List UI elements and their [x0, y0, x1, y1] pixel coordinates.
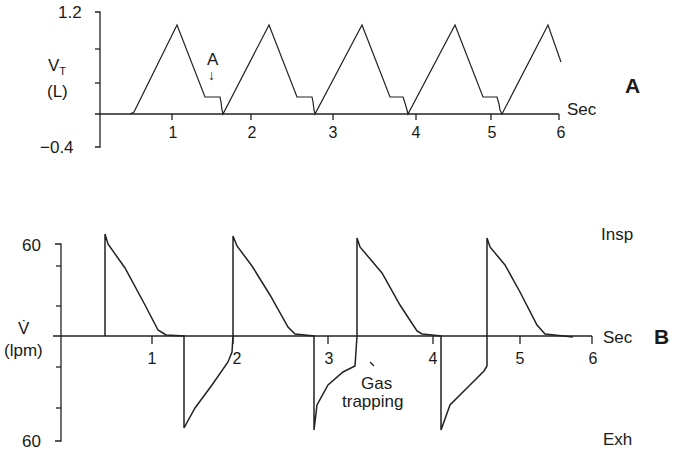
panel-b-xtick-1: 1 [148, 351, 157, 367]
panel-b-exh-label: Exh [603, 431, 632, 448]
panel-a-xunit: Sec [567, 101, 596, 118]
gas-trapping-label-line1: Gas [361, 375, 392, 392]
panel-b-xunit: Sec [603, 329, 632, 346]
panel-b-axes [53, 244, 592, 441]
panel-b-insp-label: Insp [601, 226, 633, 243]
panel-a-ylabel-main: V [48, 56, 59, 75]
panel-a-xtick-6: 6 [557, 125, 566, 141]
panel-a-annotation: A [207, 51, 218, 68]
panel-b-yunit: (lpm) [4, 342, 43, 359]
panel-a-volume-trace [130, 25, 561, 114]
panel-a-annotation-arrow-icon: ↓ [208, 68, 215, 82]
panel-b-ymax-label: 60 [22, 237, 41, 254]
panel-a-xtick-5: 5 [488, 125, 497, 141]
gas-trapping-label-line2: trapping [342, 393, 403, 410]
panel-b-xtick-5: 5 [516, 351, 525, 367]
panel-a-xtick-3: 3 [329, 125, 338, 141]
panel-a-yunit: (L) [47, 83, 68, 100]
panel-b-xtick-6: 6 [589, 351, 598, 367]
panel-b-xtick-3: 3 [325, 351, 334, 367]
panel-b-letter: B [654, 326, 669, 347]
panel-a-xtick-4: 4 [412, 125, 421, 141]
gas-trapping-arrow [370, 362, 374, 366]
chart-canvas [0, 0, 678, 456]
panel-a-ymin-label: −0.4 [40, 139, 74, 156]
panel-b-xtick-4: 4 [429, 351, 438, 367]
panel-a-ymax-label: 1.2 [58, 4, 82, 21]
panel-b-ylabel: V̇ [18, 320, 29, 337]
panel-a-xtick-2: 2 [248, 125, 257, 141]
panel-a-ylabel-sub: T [59, 65, 66, 77]
panel-b-ymin-label: 60 [22, 433, 41, 450]
panel-b-xtick-2: 2 [233, 351, 242, 367]
panel-a-xtick-1: 1 [169, 125, 178, 141]
panel-a-letter: A [625, 75, 640, 96]
panel-a-ylabel: VT [48, 57, 66, 77]
panel-b-flow-trace [105, 234, 573, 430]
